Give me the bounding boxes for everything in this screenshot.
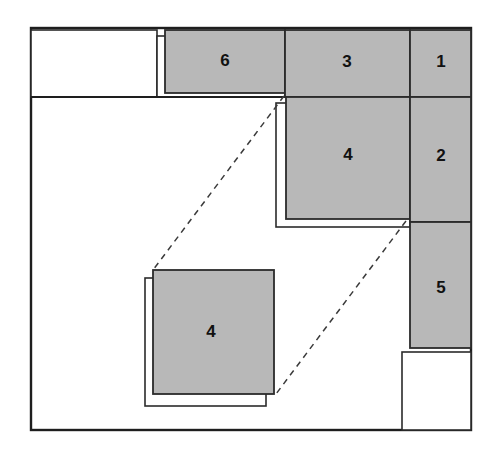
block-4-bottom-label: 4: [206, 322, 216, 341]
outline-free-topleft: [31, 30, 157, 97]
packing-diagram-figure: 6314254: [0, 0, 494, 456]
block-2-label: 2: [436, 146, 445, 165]
block-5-label: 5: [436, 278, 445, 297]
block-4-top-label: 4: [343, 145, 353, 164]
block-6-label: 6: [220, 51, 229, 70]
outline-free-bottomright: [402, 352, 471, 430]
block-3-label: 3: [342, 52, 351, 71]
block-1-label: 1: [436, 52, 445, 71]
diagram-canvas: 6314254: [0, 0, 494, 456]
